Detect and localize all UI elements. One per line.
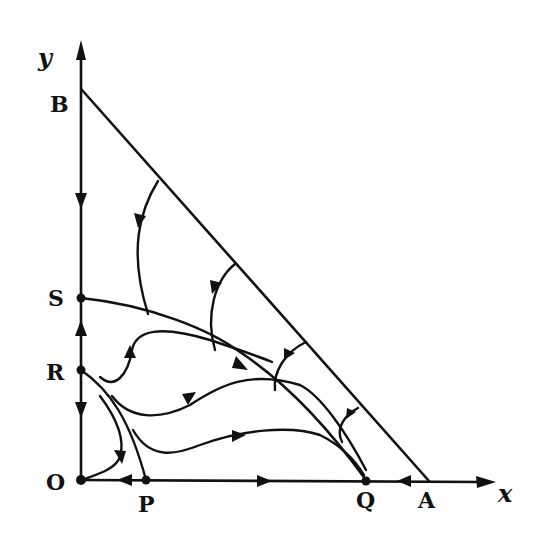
arrow-down-icon [75,193,87,209]
label-P: P [138,491,155,517]
point-P [142,476,151,485]
point-O [76,475,86,485]
arrow-up-icon [75,320,87,336]
point-S [77,294,86,303]
label-A: A [417,487,436,513]
label-S: S [48,285,64,311]
line-AB [82,90,429,481]
trajectories-R-to-O [81,370,146,480]
arrow-icon [232,356,248,370]
axis-flow-arrows [75,193,411,487]
point-Q [362,477,371,486]
trajectories-to-Q [100,331,366,475]
arrow-left-icon [117,474,132,486]
labels: y x B S R O P Q A [37,43,513,517]
phase-portrait-diagram: y x B S R O P Q A [0,0,541,556]
trajectories-from-AB [134,181,358,442]
label-Q: Q [356,487,375,513]
y-axis-label: y [37,43,54,72]
point-R [77,366,86,375]
label-R: R [46,359,65,385]
x-axis-label: x [497,479,513,508]
y-axis-arrowhead-icon [76,40,86,60]
arrow-right-icon [257,475,272,487]
label-O: O [46,469,65,495]
label-B: B [50,91,69,117]
x-axis-arrowhead-icon [476,476,496,488]
arrow-left-icon [397,475,411,487]
arrow-down-icon [75,402,87,418]
